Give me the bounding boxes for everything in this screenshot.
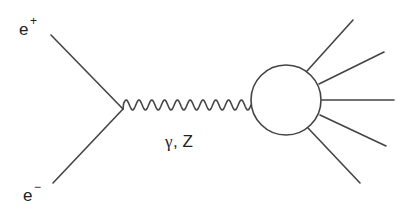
outgoing-line-5 — [308, 128, 360, 183]
electron-label-charge: − — [34, 180, 41, 194]
positron-label: e + — [19, 14, 37, 39]
outgoing-line-1 — [307, 20, 353, 71]
propagator-label-z: , Z — [173, 132, 193, 151]
propagator-label: γ , Z — [164, 132, 193, 151]
electron-label: e − — [23, 180, 41, 205]
positron-label-base: e — [19, 20, 28, 39]
feynman-diagram: e + e − γ , Z — [0, 0, 409, 211]
electron-label-base: e — [23, 186, 32, 205]
boson-propagator — [123, 100, 251, 110]
positron-line — [51, 35, 123, 109]
positron-label-charge: + — [30, 14, 37, 28]
outgoing-line-4 — [320, 115, 386, 146]
outgoing-line-2 — [319, 52, 384, 84]
propagator-label-gamma: γ — [164, 132, 173, 151]
electron-line — [53, 109, 123, 183]
hadronic-blob — [251, 65, 321, 135]
